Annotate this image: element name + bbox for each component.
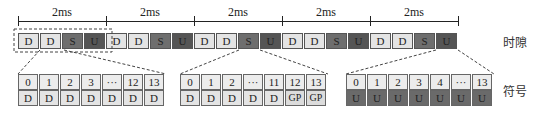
symbol: U xyxy=(409,90,429,106)
symbol: U xyxy=(430,90,450,106)
symbol-gp: GP xyxy=(306,90,326,106)
symbol: D xyxy=(222,90,242,106)
symbol-index: ··· xyxy=(243,74,263,90)
symbol: D xyxy=(123,90,143,106)
symbol-index: 4 xyxy=(430,74,450,90)
symbol: D xyxy=(18,90,38,106)
symbol: D xyxy=(81,90,101,106)
symbol-index: ··· xyxy=(102,74,122,90)
symbol-index: 13 xyxy=(472,74,492,90)
symbol-index: ··· xyxy=(451,74,471,90)
symbol-index: 2 xyxy=(222,74,242,90)
symbol-index: 2 xyxy=(388,74,408,90)
symbol: D xyxy=(201,90,221,106)
symbol: U xyxy=(451,90,471,106)
symbol-index: 3 xyxy=(409,74,429,90)
symbol-index: 11 xyxy=(264,74,284,90)
symbol: U xyxy=(346,90,366,106)
symbol-index: 0 xyxy=(18,74,38,90)
symbol: D xyxy=(144,90,164,106)
symbol-index: 1 xyxy=(39,74,59,90)
symbol-index: 12 xyxy=(285,74,305,90)
symbol-index: 0 xyxy=(346,74,366,90)
symbol: D xyxy=(180,90,200,106)
slot-row-label: 时隙 xyxy=(503,33,527,50)
symbol: D xyxy=(60,90,80,106)
symbol-index: 2 xyxy=(60,74,80,90)
symbol: D xyxy=(39,90,59,106)
symbol: U xyxy=(472,90,492,106)
symbol: U xyxy=(367,90,387,106)
symbol-index: 0 xyxy=(180,74,200,90)
symbol-row-label: 符号 xyxy=(503,82,527,99)
symbol: D xyxy=(243,90,263,106)
symbol-index: 13 xyxy=(144,74,164,90)
symbol: D xyxy=(264,90,284,106)
symbol: U xyxy=(388,90,408,106)
symbol-index: 1 xyxy=(201,74,221,90)
symbol-index: 13 xyxy=(306,74,326,90)
symbol-index: 1 xyxy=(367,74,387,90)
symbol: D xyxy=(102,90,122,106)
symbol-gp: GP xyxy=(285,90,305,106)
symbol-index: 12 xyxy=(123,74,143,90)
symbol-index: 3 xyxy=(81,74,101,90)
